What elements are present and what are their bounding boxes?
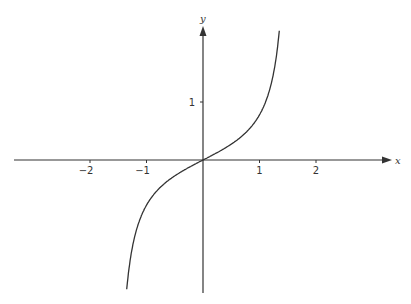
x-tick-label: −1: [135, 165, 150, 176]
y-axis-label: y: [199, 13, 206, 24]
x-tick-label: 1: [256, 165, 262, 176]
x-tick-label: 2: [313, 165, 319, 176]
x-tick-label: −2: [79, 165, 94, 176]
function-plot: −2−1121 x y: [0, 0, 411, 304]
x-axis-arrow-icon: [382, 157, 392, 164]
y-axis-arrow-icon: [200, 26, 207, 36]
x-axis-label: x: [395, 155, 401, 166]
y-tick-label: 1: [189, 97, 195, 108]
